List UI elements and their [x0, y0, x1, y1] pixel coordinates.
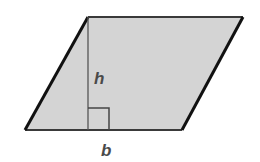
height-label: h — [94, 69, 104, 88]
parallelogram-diagram: h b — [0, 0, 260, 162]
base-label: b — [101, 141, 111, 160]
